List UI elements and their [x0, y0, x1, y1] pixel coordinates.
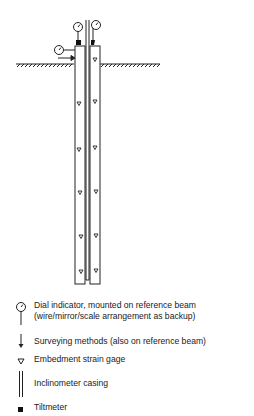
- dial-indicator-top-right: [92, 21, 101, 41]
- strain-gage-triangle-icon: [14, 357, 28, 367]
- legend-dial-indicator: Dial indicator, mounted on reference bea…: [34, 300, 196, 322]
- dial-indicator-side: [55, 46, 76, 55]
- dial-indicator-icon: [14, 301, 28, 327]
- inclinometer-casing: [86, 20, 89, 280]
- pile-right: [90, 46, 100, 284]
- tiltmeter-square-icon: [14, 405, 28, 415]
- surveying-arrow-icon: [14, 333, 28, 349]
- legend-inclinometer: Inclinometer casing: [34, 378, 108, 389]
- tiltmeter-left: [76, 40, 81, 45]
- pile-left: [75, 46, 85, 284]
- dial-indicator-top-left: [74, 23, 83, 41]
- inclinometer-casing-icon: [14, 370, 28, 398]
- pile-instrumentation-diagram: [0, 0, 254, 300]
- legend-tiltmeter: Tiltmeter: [34, 402, 67, 413]
- legend-surveying: Surveying methods (also on reference bea…: [34, 336, 206, 347]
- tiltmeter-right: [91, 40, 95, 45]
- ground-surface-left: [16, 64, 74, 67]
- legend-strain-gage: Embedment strain gage: [34, 354, 125, 365]
- ground-surface-right: [100, 64, 160, 67]
- strain-gages: [77, 58, 98, 274]
- surveying-arrow: [58, 56, 75, 61]
